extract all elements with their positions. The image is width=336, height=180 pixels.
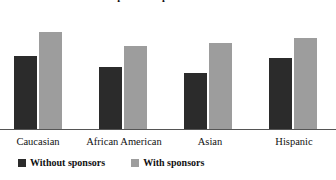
- plot-area: 45% 67% 35% 53% 30% 55% 43% 61%: [0, 12, 336, 130]
- bar-without-sponsors: [269, 58, 292, 130]
- legend-label: With sponsors: [143, 157, 204, 169]
- bar-with-sponsors: [209, 43, 232, 130]
- bar-with-sponsors: [39, 32, 62, 130]
- bar-chart: Career transitions with sponsorship 45% …: [0, 0, 336, 180]
- legend-item-without-sponsors: Without sponsors: [18, 157, 105, 169]
- category-label-african-american: African American: [76, 135, 172, 148]
- chart-title: Career transitions with sponsorship: [4, 0, 332, 3]
- bar-without-sponsors: [14, 56, 37, 130]
- bar-with-sponsors: [294, 38, 317, 130]
- bar-with-sponsors: [124, 46, 147, 130]
- category-label-asian: Asian: [172, 135, 248, 148]
- bar-without-sponsors: [99, 67, 122, 130]
- bar-without-sponsors: [184, 73, 207, 130]
- legend-swatch-icon: [18, 159, 26, 167]
- legend-swatch-icon: [131, 159, 139, 167]
- category-label-hispanic: Hispanic: [252, 135, 336, 148]
- legend-label: Without sponsors: [30, 157, 105, 169]
- legend-item-with-sponsors: With sponsors: [131, 157, 204, 169]
- chart-legend: Without sponsors With sponsors: [18, 157, 204, 169]
- axis-baseline: [0, 129, 336, 130]
- category-label-caucasian: Caucasian: [0, 135, 76, 148]
